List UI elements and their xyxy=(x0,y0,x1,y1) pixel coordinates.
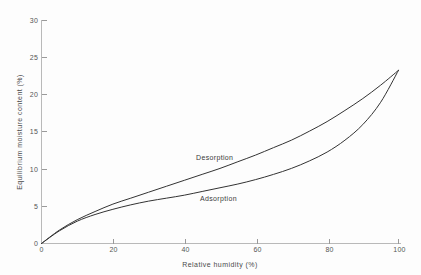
y-tick-label-25: 25 xyxy=(30,54,38,61)
chart-figure: 30 25 20 15 10 5 0 0 20 40 60 80 100 Rel… xyxy=(0,0,421,275)
x-axis-title: Relative humidity (%) xyxy=(182,261,258,269)
y-tick-label-10: 10 xyxy=(30,166,38,173)
y-tick-label-15: 15 xyxy=(30,128,38,135)
y-tick-label-30: 30 xyxy=(30,17,38,24)
adsorption-label: Adsorption xyxy=(200,195,237,203)
sorption-isotherm-chart: 30 25 20 15 10 5 0 0 20 40 60 80 100 Rel… xyxy=(0,0,421,275)
x-tick-label-80: 80 xyxy=(325,246,333,253)
desorption-label: Desorption xyxy=(196,154,233,162)
y-tick-label-5: 5 xyxy=(34,203,38,210)
x-axis-ticks xyxy=(114,239,399,244)
y-tick-label-20: 20 xyxy=(30,91,38,98)
y-axis-title: Equilibrium moisture content (%) xyxy=(16,74,24,190)
x-tick-label-0: 0 xyxy=(39,246,43,253)
y-tick-label-0: 0 xyxy=(34,240,38,247)
x-tick-label-100: 100 xyxy=(393,246,405,253)
x-tick-label-60: 60 xyxy=(253,246,261,253)
x-tick-label-40: 40 xyxy=(181,246,189,253)
x-tick-label-20: 20 xyxy=(109,246,117,253)
y-axis-ticks xyxy=(42,21,47,207)
